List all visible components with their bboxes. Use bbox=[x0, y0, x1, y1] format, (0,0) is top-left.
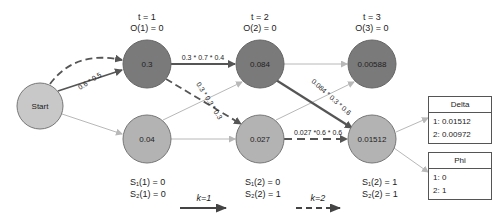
t2-top-value: 0.084 bbox=[250, 60, 271, 69]
col3-o: O(3) = 0 bbox=[355, 23, 388, 33]
edge-label-start-t1top: 0.6 * 0.5 bbox=[77, 71, 103, 91]
col1-o: O(1) = 0 bbox=[130, 23, 163, 33]
t3-top-value: 0.00588 bbox=[358, 60, 387, 69]
phi-box: Phi 1: 0 2: 1 bbox=[428, 152, 492, 200]
edge-label-t2top-t3bottom: 0.084 * 0.3 * 0.6 bbox=[310, 78, 352, 117]
edge-label-t2bottom-t3bottom: 0.027 *0.6 * 0.6 bbox=[294, 129, 342, 136]
strong-edges bbox=[50, 58, 352, 139]
col3-s1: S₁(2) = 1 bbox=[362, 177, 397, 187]
delta-row: 1: 0.01512 bbox=[429, 113, 491, 128]
phi-row: 2: 1 bbox=[429, 184, 491, 199]
col1-t: t = 1 bbox=[138, 12, 156, 22]
legend-k1: k=1 bbox=[180, 193, 226, 208]
delta-row: 2: 0.00972 bbox=[429, 128, 491, 143]
col2-t: t = 2 bbox=[251, 12, 269, 22]
legend-k2-label: k=2 bbox=[311, 193, 326, 203]
trellis-svg: Start 0.3 0.04 0.084 0.027 0.00588 0.015… bbox=[0, 0, 492, 220]
phi-row: 1: 0 bbox=[429, 169, 491, 184]
delta-title: Delta bbox=[429, 97, 491, 113]
legend-k1-label: k=1 bbox=[197, 193, 212, 203]
trellis-diagram: Start 0.3 0.04 0.084 0.027 0.00588 0.015… bbox=[0, 0, 492, 220]
edge-label-t1top-t2top: 0.3 * 0.7 * 0.4 bbox=[182, 54, 225, 61]
t1-top-value: 0.3 bbox=[141, 60, 153, 69]
delta-box: Delta 1: 0.01512 2: 0.00972 bbox=[428, 96, 492, 144]
edge-label-t1top-t2bottom: 0.3 * 0.3 * 0.3 bbox=[195, 81, 223, 121]
col2-s2: S₂(2) = 1 bbox=[245, 189, 281, 199]
t2-bottom-value: 0.027 bbox=[250, 135, 271, 144]
col3-t: t = 3 bbox=[363, 12, 381, 22]
col1-s1: S₁(1) = 0 bbox=[130, 177, 165, 187]
phi-title: Phi bbox=[429, 153, 491, 169]
col2-o: O(2) = 0 bbox=[243, 23, 276, 33]
col3-s2: S₂(2) = 1 bbox=[362, 189, 398, 199]
col2-s1: S₁(2) = 0 bbox=[245, 177, 280, 187]
t3-bottom-value: 0.01512 bbox=[358, 135, 387, 144]
t1-bottom-value: 0.04 bbox=[139, 135, 155, 144]
start-label: Start bbox=[32, 102, 50, 111]
legend-k2: k=2 bbox=[296, 193, 340, 208]
col1-s2: S₂(1) = 0 bbox=[130, 189, 166, 199]
